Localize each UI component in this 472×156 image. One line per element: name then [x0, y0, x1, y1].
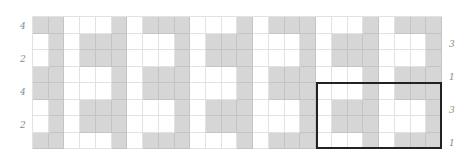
- grid-cell-empty: [64, 83, 80, 100]
- grid-cell-filled: [348, 50, 364, 67]
- grid-cell-empty: [143, 34, 159, 51]
- grid-cell-filled: [96, 116, 112, 133]
- grid-cell-empty: [64, 116, 80, 133]
- grid-cell-empty: [80, 83, 96, 100]
- grid-cell-empty: [159, 116, 175, 133]
- grid-cell-empty: [316, 34, 332, 51]
- right-row-label: 3: [449, 105, 455, 115]
- grid-cell-empty: [332, 67, 348, 84]
- grid-cell-empty: [64, 17, 80, 34]
- grid-cell-filled: [80, 100, 96, 117]
- grid-cell-empty: [33, 50, 49, 67]
- grid-cell-empty: [253, 50, 269, 67]
- grid-cell-empty: [379, 133, 395, 150]
- right-row-label: 1: [449, 138, 455, 148]
- grid-cell-empty: [64, 67, 80, 84]
- grid-cell-empty: [190, 100, 206, 117]
- grid-cell-filled: [175, 50, 191, 67]
- grid-cell-empty: [159, 100, 175, 117]
- grid-cell-filled: [332, 116, 348, 133]
- grid-cell-empty: [127, 83, 143, 100]
- grid-cell-filled: [348, 100, 364, 117]
- grid-cell-empty: [143, 50, 159, 67]
- grid-cell-empty: [80, 67, 96, 84]
- grid-cell-filled: [143, 67, 159, 84]
- grid-cell-filled: [96, 50, 112, 67]
- grid-cell-filled: [237, 116, 253, 133]
- grid-cell-empty: [33, 34, 49, 51]
- grid-cell-empty: [96, 67, 112, 84]
- grid-cell-filled: [33, 83, 49, 100]
- grid-cell-filled: [269, 83, 285, 100]
- grid-cell-empty: [127, 100, 143, 117]
- grid-cell-filled: [300, 100, 316, 117]
- grid-cell-filled: [112, 116, 128, 133]
- grid-cell-empty: [190, 17, 206, 34]
- grid-cell-empty: [33, 116, 49, 133]
- grid-cell-filled: [285, 133, 301, 150]
- grid-cell-empty: [379, 83, 395, 100]
- grid-cell-filled: [411, 67, 427, 84]
- grid-cell-empty: [316, 17, 332, 34]
- grid-cell-filled: [49, 34, 65, 51]
- grid-cell-empty: [411, 116, 427, 133]
- grid-cell-empty: [411, 34, 427, 51]
- grid-cell-empty: [348, 67, 364, 84]
- grid-cell-filled: [300, 133, 316, 150]
- right-row-label: 1: [449, 72, 455, 82]
- grid-cell-filled: [300, 83, 316, 100]
- grid-cell-empty: [127, 17, 143, 34]
- grid-cell-empty: [316, 116, 332, 133]
- grid-cell-filled: [96, 34, 112, 51]
- grid-cell-empty: [206, 83, 222, 100]
- grid-cell-filled: [80, 50, 96, 67]
- grid-cell-filled: [175, 100, 191, 117]
- grid-cell-filled: [222, 50, 238, 67]
- grid-cell-filled: [175, 17, 191, 34]
- grid-cell-empty: [379, 17, 395, 34]
- grid-cell-filled: [411, 133, 427, 150]
- grid-cell-empty: [285, 100, 301, 117]
- grid-cell-filled: [363, 133, 379, 150]
- grid-cell-empty: [332, 133, 348, 150]
- grid-cell-filled: [49, 50, 65, 67]
- grid-cell-filled: [363, 17, 379, 34]
- grid-cell-filled: [285, 83, 301, 100]
- grid-cell-filled: [96, 100, 112, 117]
- grid-cell-filled: [332, 100, 348, 117]
- grid-cell-filled: [332, 34, 348, 51]
- grid-cell-empty: [395, 116, 411, 133]
- grid-cell-empty: [379, 50, 395, 67]
- grid-cell-filled: [300, 17, 316, 34]
- grid-cell-empty: [253, 34, 269, 51]
- left-row-label: 2: [20, 120, 26, 130]
- grid-cell-filled: [33, 67, 49, 84]
- grid-cell-empty: [348, 133, 364, 150]
- grid-cell-empty: [316, 100, 332, 117]
- grid-cell-empty: [316, 67, 332, 84]
- grid-cell-empty: [143, 100, 159, 117]
- grid-cell-filled: [159, 17, 175, 34]
- grid-cell-filled: [49, 133, 65, 150]
- grid-cell-empty: [222, 17, 238, 34]
- grid-cell-filled: [300, 50, 316, 67]
- grid-cell-filled: [237, 50, 253, 67]
- grid-cell-filled: [49, 83, 65, 100]
- grid-cell-filled: [222, 116, 238, 133]
- grid-cell-filled: [112, 133, 128, 150]
- grid-cell-filled: [426, 133, 442, 150]
- grid-cell-empty: [64, 133, 80, 150]
- grid-cell-empty: [395, 100, 411, 117]
- grid-cell-empty: [269, 116, 285, 133]
- grid-cell-empty: [379, 100, 395, 117]
- grid-cell-empty: [395, 34, 411, 51]
- grid-cell-empty: [190, 116, 206, 133]
- weave-grid: [32, 16, 442, 149]
- grid-cell-filled: [395, 17, 411, 34]
- grid-cell-filled: [348, 116, 364, 133]
- grid-cell-empty: [222, 133, 238, 150]
- grid-cell-empty: [316, 50, 332, 67]
- grid-cell-filled: [300, 67, 316, 84]
- grid-cell-filled: [426, 50, 442, 67]
- grid-cell-empty: [379, 34, 395, 51]
